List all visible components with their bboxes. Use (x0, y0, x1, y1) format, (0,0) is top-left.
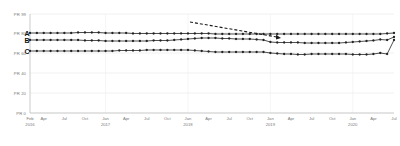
data-point (317, 33, 319, 35)
data-point (283, 53, 285, 55)
data-point (91, 50, 93, 52)
series-label-c: C (25, 48, 30, 55)
y-axis-tick-label: PR 80 (2, 31, 26, 36)
data-point (111, 50, 113, 52)
data-point (372, 39, 374, 41)
data-point (228, 33, 230, 35)
data-point (269, 52, 271, 54)
data-point (283, 33, 285, 35)
data-point (207, 37, 209, 39)
data-point (352, 53, 354, 55)
data-point (235, 33, 237, 35)
data-point (290, 53, 292, 55)
data-point (63, 50, 65, 52)
data-point (125, 49, 127, 51)
data-point (304, 33, 306, 35)
data-point (194, 32, 196, 34)
y-axis-tick-label: PR 40 (2, 71, 26, 76)
data-point (365, 33, 367, 35)
data-point (180, 49, 182, 51)
x-axis-tick-label: Apr (205, 116, 212, 121)
x-tick-year: 2020 (348, 122, 357, 127)
x-axis-tick-label: Apr (40, 116, 47, 121)
data-point (242, 38, 244, 40)
data-point (180, 32, 182, 34)
x-axis-tick-label: Jan2019 (266, 116, 275, 127)
data-point (242, 51, 244, 53)
x-tick-month: Oct (164, 116, 171, 121)
data-point (324, 42, 326, 44)
data-point (235, 51, 237, 53)
data-point (365, 40, 367, 42)
data-point (214, 33, 216, 35)
data-point (207, 50, 209, 52)
chart-container: PR 99PR 80PR 60PR 40PR 20PR 0Feb2016AprJ… (0, 0, 400, 146)
data-point (345, 33, 347, 35)
data-point (338, 33, 340, 35)
data-point (228, 37, 230, 39)
data-point (372, 53, 374, 55)
data-point (91, 39, 93, 41)
x-axis-tick-label: Apr (123, 116, 130, 121)
data-point (345, 41, 347, 43)
data-point (166, 39, 168, 41)
data-point (201, 37, 203, 39)
data-point (125, 32, 127, 34)
data-point (352, 33, 354, 35)
data-point (77, 31, 79, 33)
x-tick-month: Apr (370, 116, 377, 121)
data-point (118, 40, 120, 42)
data-point (152, 32, 154, 34)
data-point (173, 49, 175, 51)
data-point (70, 50, 72, 52)
data-point (297, 41, 299, 43)
data-point (393, 39, 395, 41)
data-point (56, 32, 58, 34)
data-point (70, 39, 72, 41)
x-tick-month: Jul (309, 116, 314, 121)
data-point (125, 40, 127, 42)
data-point (310, 42, 312, 44)
data-point (43, 39, 45, 41)
data-point (104, 50, 106, 52)
data-point (262, 51, 264, 53)
x-axis-tick-label: Oct (247, 116, 254, 121)
data-point (49, 39, 51, 41)
x-tick-year: 2018 (183, 122, 192, 127)
x-axis-tick-label: Jul (391, 116, 396, 121)
data-point (317, 42, 319, 44)
x-axis-tick-label: Feb2016 (25, 116, 34, 127)
data-point (221, 33, 223, 35)
series-b (29, 36, 395, 44)
data-point (221, 51, 223, 53)
data-point (49, 32, 51, 34)
data-point (249, 38, 251, 40)
data-point (276, 33, 278, 35)
data-point (331, 42, 333, 44)
data-point (235, 38, 237, 40)
data-point (345, 53, 347, 55)
x-tick-month: Oct (82, 116, 89, 121)
series-label-b: B (25, 37, 30, 44)
data-point (91, 31, 93, 33)
data-point (43, 50, 45, 52)
data-point (118, 32, 120, 34)
data-point (310, 33, 312, 35)
x-tick-month: Oct (329, 116, 336, 121)
x-tick-year: 2017 (101, 122, 110, 127)
x-tick-month: Oct (247, 116, 254, 121)
y-axis-tick-label: PR 20 (2, 91, 26, 96)
x-axis-tick-label: Oct (164, 116, 171, 121)
data-point (159, 49, 161, 51)
data-point (146, 40, 148, 42)
data-point (201, 50, 203, 52)
data-point (379, 52, 381, 54)
data-point (324, 53, 326, 55)
data-point (359, 40, 361, 42)
data-point (393, 32, 395, 34)
data-point (269, 33, 271, 35)
x-tick-month: Apr (288, 116, 295, 121)
x-tick-month: Jul (62, 116, 67, 121)
data-point (317, 53, 319, 55)
data-point (324, 33, 326, 35)
